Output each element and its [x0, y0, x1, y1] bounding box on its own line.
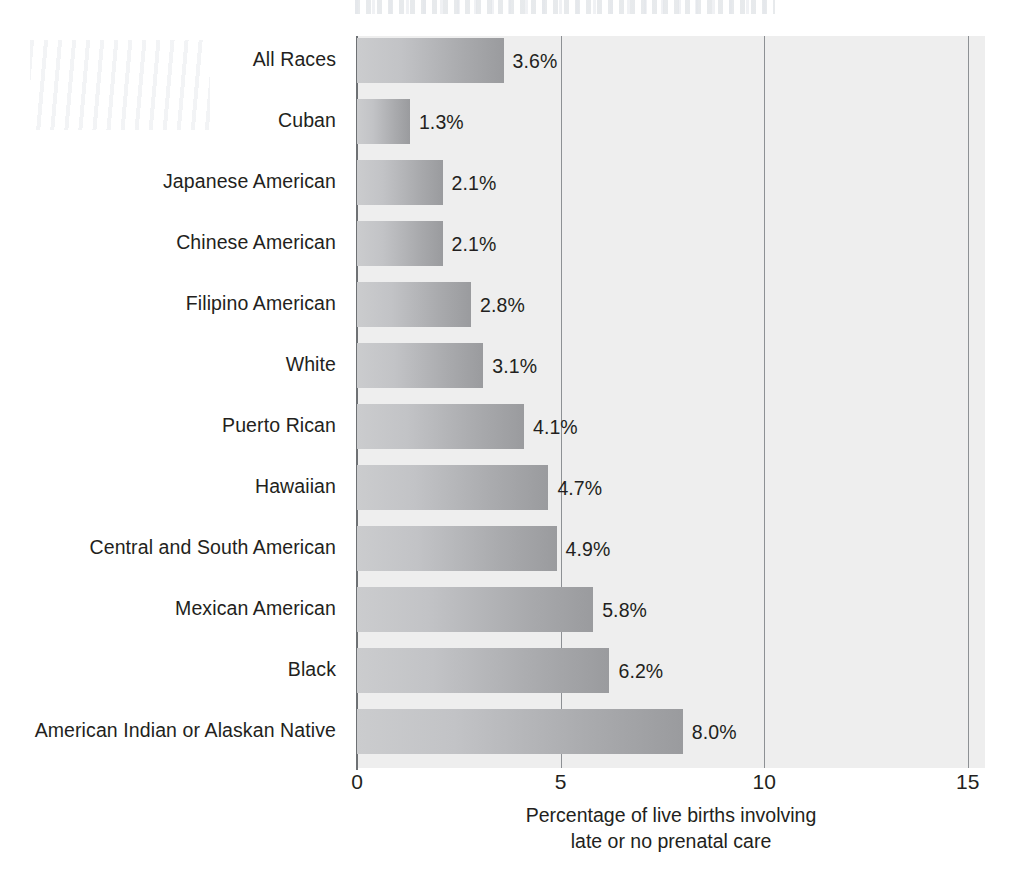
bar	[357, 282, 471, 327]
x-axis-title: Percentage of live births involvinglate …	[357, 802, 985, 854]
category-label: Central and South American	[0, 536, 348, 559]
category-label: Filipino American	[0, 292, 348, 315]
bar-value-label: 1.3%	[419, 110, 464, 133]
bar-row: 8.0%	[357, 709, 985, 754]
bar-row: 5.8%	[357, 587, 985, 632]
horizontal-bar-chart: 3.6%1.3%2.1%2.1%2.8%3.1%4.1%4.7%4.9%5.8%…	[0, 0, 1010, 879]
bar-row: 2.8%	[357, 282, 985, 327]
bar-row: 2.1%	[357, 221, 985, 266]
category-label: Mexican American	[0, 597, 348, 620]
bar-row: 4.1%	[357, 404, 985, 449]
category-label: Puerto Rican	[0, 414, 348, 437]
bar-value-label: 8.0%	[692, 720, 737, 743]
bar-value-label: 2.1%	[452, 171, 497, 194]
bar	[357, 648, 609, 693]
bar-value-label: 4.1%	[533, 415, 578, 438]
x-tick-5: 5	[555, 770, 567, 794]
category-label: American Indian or Alaskan Native	[0, 719, 348, 742]
bar	[357, 465, 548, 510]
x-axis-title-line: late or no prenatal care	[357, 828, 985, 854]
bar	[357, 99, 410, 144]
bar-row: 3.1%	[357, 343, 985, 388]
bar	[357, 221, 443, 266]
x-tick-15: 15	[956, 770, 979, 794]
bar	[357, 526, 557, 571]
bar-value-label: 3.1%	[492, 354, 537, 377]
bar-value-label: 6.2%	[618, 659, 663, 682]
category-label: All Races	[0, 48, 348, 71]
bar-value-label: 4.7%	[557, 476, 602, 499]
category-label: Chinese American	[0, 231, 348, 254]
category-label: Hawaiian	[0, 475, 348, 498]
bar	[357, 587, 593, 632]
bar-row: 4.9%	[357, 526, 985, 571]
x-tick-0: 0	[351, 770, 363, 794]
x-axis-tick-labels: 051015	[0, 770, 1010, 802]
bar-value-label: 3.6%	[513, 49, 558, 72]
bar	[357, 404, 524, 449]
x-axis-title-line: Percentage of live births involving	[357, 802, 985, 828]
bar	[357, 38, 504, 83]
category-label: White	[0, 353, 348, 376]
x-tick-10: 10	[753, 770, 776, 794]
category-label: Japanese American	[0, 170, 348, 193]
category-label: Cuban	[0, 109, 348, 132]
bar	[357, 343, 483, 388]
category-label: Black	[0, 658, 348, 681]
category-axis-labels: All RacesCubanJapanese AmericanChinese A…	[0, 36, 348, 768]
bar	[357, 709, 683, 754]
bar-value-label: 4.9%	[566, 537, 611, 560]
bar-row: 4.7%	[357, 465, 985, 510]
bar-row: 6.2%	[357, 648, 985, 693]
bar-row: 3.6%	[357, 38, 985, 83]
bar-value-label: 2.1%	[452, 232, 497, 255]
bar-value-label: 5.8%	[602, 598, 647, 621]
bar-row: 2.1%	[357, 160, 985, 205]
bar-row: 1.3%	[357, 99, 985, 144]
bar	[357, 160, 443, 205]
bar-value-label: 2.8%	[480, 293, 525, 316]
